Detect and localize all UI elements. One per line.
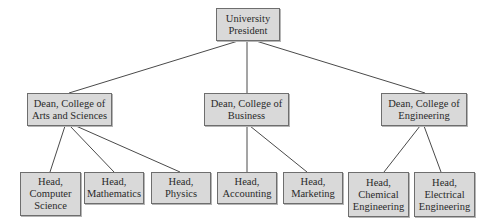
node-label: Head, Mathematics bbox=[87, 176, 141, 200]
node-label: Head, Accounting bbox=[223, 176, 272, 200]
node-head-mathematics: Head, Mathematics bbox=[84, 172, 144, 204]
node-head-computer-science: Head, Computer Science bbox=[20, 172, 81, 216]
node-head-accounting: Head, Accounting bbox=[217, 172, 277, 204]
edge-engineering-chemical bbox=[384, 126, 420, 172]
edge-engineering-electrical bbox=[424, 126, 441, 172]
node-university-president: University President bbox=[216, 8, 280, 41]
org-chart: University President Dean, College of Ar… bbox=[0, 0, 494, 222]
node-label: Head, Chemical Engineering bbox=[353, 177, 404, 213]
node-head-chemical-engineering: Head, Chemical Engineering bbox=[348, 172, 409, 217]
node-label: Head, Electrical Engineering bbox=[419, 177, 470, 213]
node-label: Dean, College of Arts and Sciences bbox=[32, 98, 107, 122]
node-label: Dean, College of Engineering bbox=[388, 98, 459, 122]
node-head-marketing: Head, Marketing bbox=[283, 172, 343, 204]
node-head-electrical-engineering: Head, Electrical Engineering bbox=[414, 172, 475, 217]
edge-president-arts bbox=[69, 41, 238, 93]
edge-business-marketing bbox=[250, 126, 307, 172]
node-label: Dean, College of Business bbox=[211, 98, 282, 122]
node-dean-engineering: Dean, College of Engineering bbox=[381, 93, 467, 126]
node-dean-arts-sciences: Dean, College of Arts and Sciences bbox=[27, 93, 112, 126]
edge-president-engineering bbox=[256, 41, 425, 93]
node-label: Head, Physics bbox=[165, 176, 197, 200]
node-head-physics: Head, Physics bbox=[151, 172, 211, 204]
edge-arts-cs bbox=[50, 126, 65, 172]
node-dean-business: Dean, College of Business bbox=[204, 93, 289, 126]
node-label: Head, Marketing bbox=[291, 176, 335, 200]
node-label: University President bbox=[226, 13, 270, 37]
node-label: Head, Computer Science bbox=[30, 176, 72, 212]
